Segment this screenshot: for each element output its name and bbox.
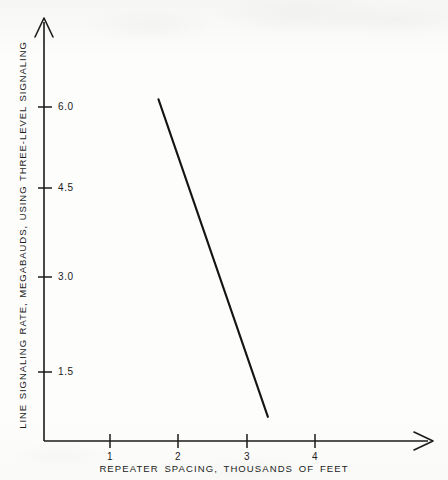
x-tick-label-3: 3 <box>237 451 257 462</box>
y-tick-label-6.0: 6.0 <box>58 101 74 112</box>
x-tick-label-1: 1 <box>100 451 120 462</box>
chart-figure: 6.0 4.5 3.0 1.5 1 2 3 4 REPEATER SPACING… <box>0 0 448 480</box>
x-axis-label: REPEATER SPACING, THOUSANDS OF FEET <box>0 463 448 474</box>
data-series-line <box>159 99 268 417</box>
y-tick-label-3.0: 3.0 <box>58 271 74 282</box>
x-tick-label-4: 4 <box>305 451 325 462</box>
y-axis-label: LINE SIGNALING RATE, MEGABAUDS, USING TH… <box>17 41 28 429</box>
plot-canvas <box>0 0 448 480</box>
y-tick-label-4.5: 4.5 <box>58 182 74 193</box>
x-tick-label-2: 2 <box>168 451 188 462</box>
y-tick-label-1.5: 1.5 <box>58 366 74 377</box>
